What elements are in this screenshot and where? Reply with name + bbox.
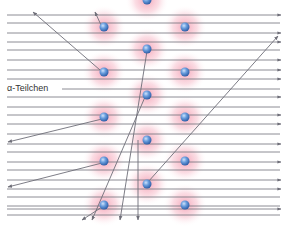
atom-nucleus <box>143 45 152 54</box>
atom-halos <box>82 0 207 226</box>
atom-nucleus <box>181 23 190 32</box>
atom-nucleus <box>100 68 109 77</box>
atom-nucleus <box>100 23 109 32</box>
atom-nucleus <box>100 113 109 122</box>
diagram-canvas <box>0 0 287 226</box>
atom-nucleus <box>181 113 190 122</box>
atom-nucleus <box>143 136 152 145</box>
alpha-particle-label: α-Teilchen <box>7 83 50 94</box>
atom-nucleus <box>181 157 190 166</box>
atom-nucleus <box>181 201 190 210</box>
atom-nucleus <box>143 180 152 189</box>
atom-nucleus <box>143 91 152 100</box>
atom-nucleus <box>100 157 109 166</box>
rutherford-scattering-diagram: α-Teilchen <box>0 0 287 226</box>
atom-nucleus <box>100 201 109 210</box>
atom-nucleus <box>181 68 190 77</box>
